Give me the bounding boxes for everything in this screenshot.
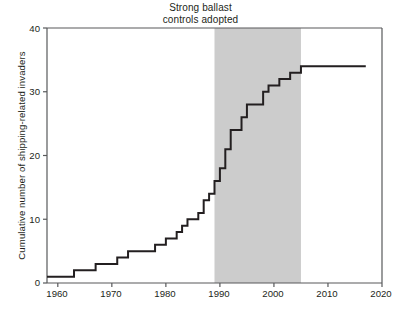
chart-figure: Strong ballast controls adopted Cumulati…	[0, 0, 401, 310]
chart-canvas	[0, 0, 401, 310]
data-series-line	[47, 66, 366, 276]
shaded-span-region	[215, 28, 301, 283]
